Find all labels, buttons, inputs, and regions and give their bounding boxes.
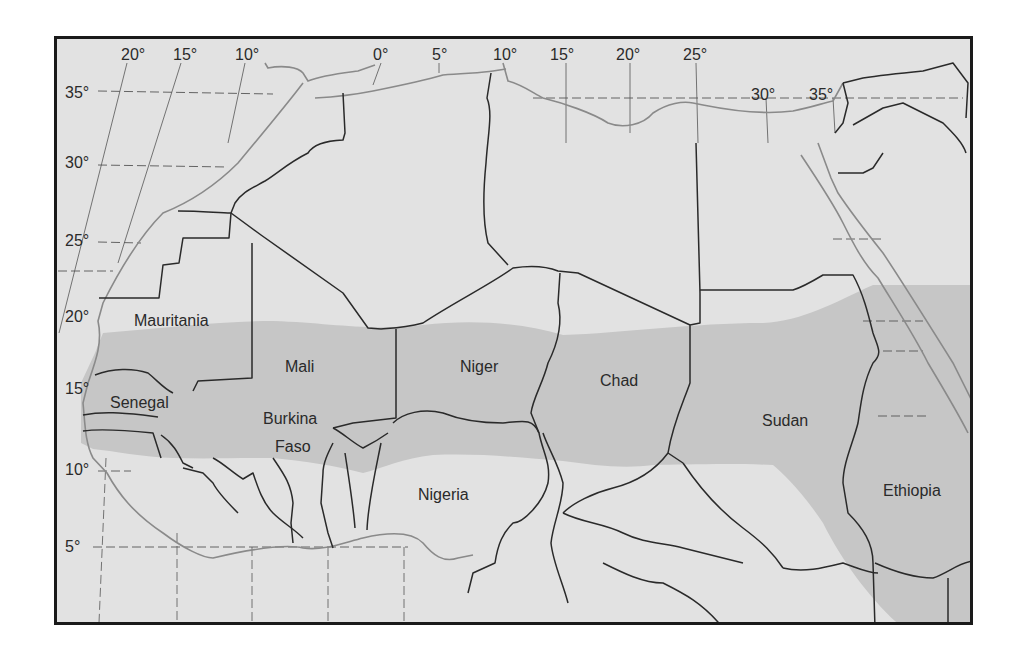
map-canvas [57, 39, 973, 625]
longitude-label: 20° [616, 47, 640, 63]
longitude-label: 20° [121, 47, 145, 63]
country-label-nigeria: Nigeria [418, 487, 469, 503]
country-label-ethiopia: Ethiopia [883, 483, 941, 499]
country-label-senegal: Senegal [110, 395, 169, 411]
longitude-label: 30° [751, 87, 775, 103]
country-label-mali: Mali [285, 359, 314, 375]
longitude-label: 10° [235, 47, 259, 63]
latitude-label: 5° [65, 539, 80, 555]
longitude-label: 15° [173, 47, 197, 63]
latitude-label: 25° [65, 233, 89, 249]
country-label-faso: Faso [275, 439, 311, 455]
longitude-label: 5° [432, 47, 447, 63]
sahel-band [81, 285, 973, 625]
longitude-label: 0° [373, 47, 388, 63]
country-label-niger: Niger [460, 359, 498, 375]
longitude-label: 10° [493, 47, 517, 63]
longitude-label: 35° [809, 87, 833, 103]
country-label-mauritania: Mauritania [134, 313, 209, 329]
country-label-burkina: Burkina [263, 411, 317, 427]
country-label-chad: Chad [600, 373, 638, 389]
latitude-label: 20° [65, 309, 89, 325]
latitude-label: 30° [65, 155, 89, 171]
latitude-label: 10° [65, 462, 89, 478]
longitude-label: 15° [550, 47, 574, 63]
latitude-label: 35° [65, 85, 89, 101]
longitude-label: 25° [683, 47, 707, 63]
meridians [59, 63, 835, 333]
latitude-label: 15° [65, 381, 89, 397]
country-label-sudan: Sudan [762, 413, 808, 429]
map-frame: 20° 15° 10° 0° 5° 10° 15° 20° 25° 30° 35… [54, 36, 973, 625]
meridians-south [99, 458, 404, 623]
